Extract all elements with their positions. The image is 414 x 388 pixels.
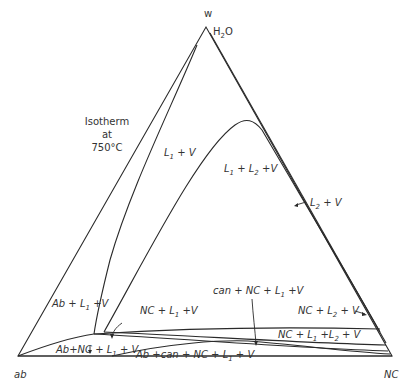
vertex-h2o-label: H2O bbox=[213, 26, 233, 40]
arrowhead-icon bbox=[294, 203, 298, 207]
vertex-ab-label: ab bbox=[14, 369, 26, 380]
field-l2-v: L2 + V bbox=[310, 197, 343, 211]
l1-v-boundary bbox=[94, 45, 197, 334]
ternary-phase-diagram: w H2O ab NC Isotherm at 750°C L1 + V L1 … bbox=[0, 0, 414, 388]
field-nc-l1-v: NC + L1 +V bbox=[140, 305, 199, 319]
field-l1-v: L1 + V bbox=[164, 147, 197, 161]
field-ab-l1-v: Ab + L1 +V bbox=[51, 298, 110, 312]
leader-can-nc-l1-v bbox=[252, 299, 256, 344]
l2-v-boundary bbox=[210, 33, 386, 343]
isotherm-title-line-1: Isotherm bbox=[85, 116, 129, 127]
vertex-nc-label: NC bbox=[384, 369, 398, 380]
arrowhead-icon bbox=[110, 334, 114, 339]
field-ab-can-nc-l1-v: Ab +can + NC + L1 + V bbox=[135, 349, 255, 363]
arrowhead-icon bbox=[362, 312, 367, 316]
isotherm-title-line-3: 750°C bbox=[91, 142, 122, 153]
field-nc-l2-v: NC + L2 + V bbox=[298, 305, 360, 319]
field-l1-l2-v: L1 + L2 +V bbox=[224, 163, 278, 177]
field-can-nc-l1-v: can + NC + L1 +V bbox=[213, 285, 305, 299]
isotherm-title-line-2: at bbox=[102, 129, 112, 140]
l1-l2-solvus-dome bbox=[104, 120, 380, 332]
vertex-w-label: w bbox=[204, 8, 212, 19]
